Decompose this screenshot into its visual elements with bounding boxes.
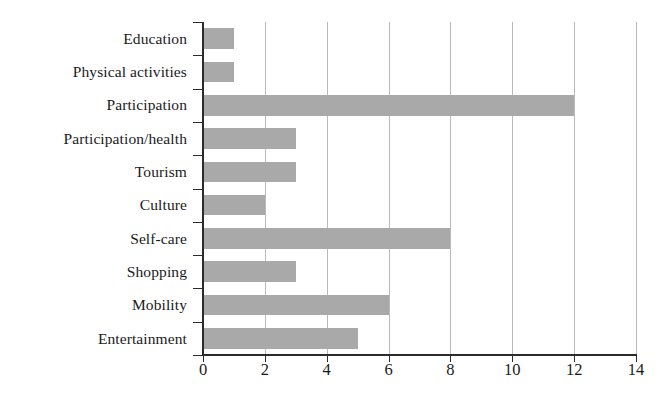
gridline-14 bbox=[636, 22, 637, 355]
x-axis-tick-label-12: 12 bbox=[566, 362, 583, 379]
x-axis-spine bbox=[202, 354, 637, 356]
x-axis-tick-label-4: 4 bbox=[323, 362, 331, 379]
bar-row bbox=[203, 328, 636, 349]
bar-row bbox=[203, 195, 636, 216]
y-axis-label-physical-activities: Physical activities bbox=[0, 55, 196, 88]
bar-row bbox=[203, 261, 636, 282]
plot-area bbox=[203, 22, 636, 355]
y-axis-label-tourism: Tourism bbox=[0, 155, 196, 188]
bar-mobility[interactable] bbox=[203, 295, 389, 316]
y-tick-mark bbox=[193, 55, 203, 56]
y-tick-mark bbox=[193, 255, 203, 256]
y-tick-mark bbox=[193, 222, 203, 223]
y-tick-mark bbox=[193, 355, 203, 356]
bar-self-care[interactable] bbox=[203, 228, 450, 249]
bar-row bbox=[203, 162, 636, 183]
bar-tourism[interactable] bbox=[203, 162, 296, 183]
x-axis-tick-label-6: 6 bbox=[384, 362, 392, 379]
y-axis-labels: Education Physical activities Participat… bbox=[0, 22, 196, 355]
bar-series bbox=[203, 22, 636, 355]
bar-row bbox=[203, 28, 636, 49]
y-axis-label-mobility: Mobility bbox=[0, 288, 196, 321]
bar-entertainment[interactable] bbox=[203, 328, 358, 349]
bar-physical-activities[interactable] bbox=[203, 62, 234, 83]
y-tick-mark bbox=[193, 322, 203, 323]
bar-education[interactable] bbox=[203, 28, 234, 49]
y-axis-label-participation: Participation bbox=[0, 89, 196, 122]
bar-row bbox=[203, 295, 636, 316]
y-tick-mark bbox=[193, 288, 203, 289]
y-tick-mark bbox=[193, 189, 203, 190]
bar-row bbox=[203, 62, 636, 83]
x-axis-tick-label-0: 0 bbox=[199, 362, 207, 379]
y-axis-label-culture: Culture bbox=[0, 188, 196, 221]
y-tick-mark bbox=[193, 89, 203, 90]
y-tick-mark bbox=[193, 155, 203, 156]
y-axis-label-self-care: Self-care bbox=[0, 222, 196, 255]
y-axis-label-shopping: Shopping bbox=[0, 255, 196, 288]
x-axis-tick-label-2: 2 bbox=[261, 362, 269, 379]
y-tick-mark bbox=[193, 22, 203, 23]
bar-participation[interactable] bbox=[203, 95, 574, 116]
bar-row bbox=[203, 228, 636, 249]
y-tick-mark bbox=[193, 122, 203, 123]
bar-row bbox=[203, 128, 636, 149]
y-axis-label-entertainment: Entertainment bbox=[0, 322, 196, 355]
x-axis-labels: 02468101214 bbox=[0, 362, 665, 392]
x-axis-tick-label-10: 10 bbox=[504, 362, 521, 379]
bar-row bbox=[203, 95, 636, 116]
y-axis-label-education: Education bbox=[0, 22, 196, 55]
bar-shopping[interactable] bbox=[203, 261, 296, 282]
x-axis-tick-label-14: 14 bbox=[628, 362, 645, 379]
bar-participation-health[interactable] bbox=[203, 128, 296, 149]
bar-culture[interactable] bbox=[203, 195, 265, 216]
y-axis-label-participation-health: Participation/health bbox=[0, 122, 196, 155]
bar-chart: Education Physical activities Participat… bbox=[0, 0, 665, 396]
x-axis-tick-label-8: 8 bbox=[446, 362, 454, 379]
